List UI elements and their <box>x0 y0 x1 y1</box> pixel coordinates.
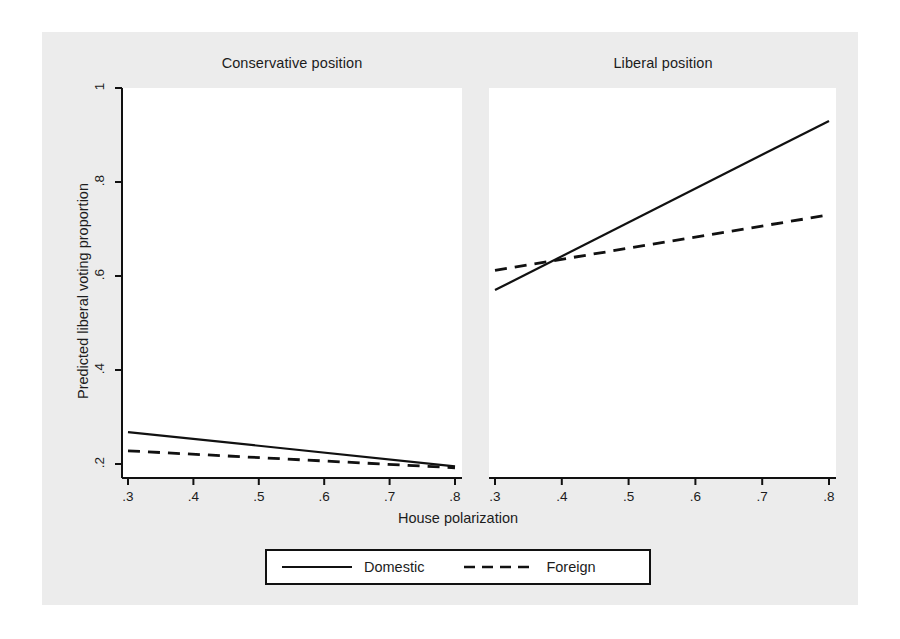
y-tick-label: 1 <box>92 74 107 100</box>
x-tick-label: .4 <box>178 489 208 504</box>
legend-key-dashed-icon <box>464 561 534 573</box>
x-axis-label: House polarization <box>328 510 588 526</box>
x-tick-label: .6 <box>680 489 710 504</box>
x-tick-label: .3 <box>113 489 143 504</box>
y-tick-label: .2 <box>92 450 107 476</box>
chart-legend: Domestic Foreign <box>265 549 651 585</box>
y-tick-label: .4 <box>92 356 107 382</box>
legend-entry-foreign: Foreign <box>464 551 595 583</box>
x-tick-label: .7 <box>747 489 777 504</box>
panel-title-conservative: Conservative position <box>128 55 456 71</box>
plot-area-conservative <box>122 88 462 478</box>
x-tick-label: .3 <box>480 489 510 504</box>
x-tick-label: .4 <box>547 489 577 504</box>
y-tick-label: .6 <box>92 262 107 288</box>
x-tick-label: .8 <box>440 489 470 504</box>
legend-key-solid-icon <box>282 561 352 573</box>
legend-entry-domestic: Domestic <box>282 551 424 583</box>
y-tick-label: .8 <box>92 168 107 194</box>
panel-title-liberal: Liberal position <box>495 55 831 71</box>
x-tick-label: .7 <box>375 489 405 504</box>
legend-label-foreign: Foreign <box>546 559 595 575</box>
x-tick-label: .8 <box>814 489 844 504</box>
y-axis-label: Predicted liberal voting proportion <box>75 141 91 441</box>
x-tick-label: .6 <box>309 489 339 504</box>
plot-area-liberal <box>489 88 836 478</box>
legend-label-domestic: Domestic <box>364 559 424 575</box>
x-tick-label: .5 <box>614 489 644 504</box>
x-tick-label: .5 <box>244 489 274 504</box>
